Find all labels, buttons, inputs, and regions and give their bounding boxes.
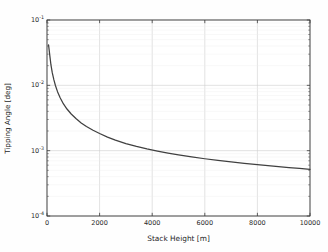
y-tick-label: 10-2 xyxy=(20,81,44,89)
x-tick-label: 0 xyxy=(45,219,49,227)
x-tick-label: 8000 xyxy=(249,219,266,227)
chart-plot-area xyxy=(0,0,328,252)
y-tick-label: 10-1 xyxy=(20,16,44,24)
y-axis-title-wrapper: Tipping Angle [deg] xyxy=(0,20,14,216)
x-tick-label: 6000 xyxy=(197,219,214,227)
x-tick-label: 2000 xyxy=(91,219,108,227)
y-tick-label: 10-3 xyxy=(20,147,44,155)
x-axis-title: Stack Height [m] xyxy=(47,234,310,243)
y-tick-label: 10-4 xyxy=(20,212,44,220)
plot-background xyxy=(47,20,310,216)
figure-canvas: 0200040006000800010000 10-410-310-210-1 … xyxy=(0,0,328,252)
y-axis-title: Tipping Angle [deg] xyxy=(3,83,12,154)
x-tick-label: 10000 xyxy=(300,219,321,227)
x-tick-label: 4000 xyxy=(144,219,161,227)
plot-background-group xyxy=(47,20,310,216)
